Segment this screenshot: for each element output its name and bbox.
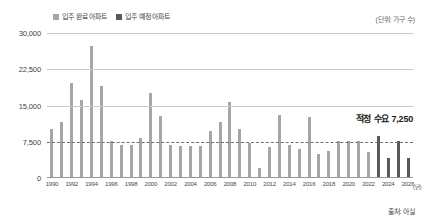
bar <box>110 141 113 177</box>
bar <box>268 147 271 177</box>
bar <box>367 152 370 177</box>
x-axis-slot: 2008 <box>225 181 235 195</box>
bar <box>70 83 73 177</box>
y-axis-tick-label: 7,500 <box>23 137 41 146</box>
bar <box>130 145 133 177</box>
apartment-supply-chart: 입주 완료 아파트 입주 예정 아파트 (단위: 가구 수) 07,50015,… <box>0 0 425 224</box>
bar <box>169 145 172 177</box>
x-axis-slot: 2000 <box>146 181 156 195</box>
chart-legend: 입주 완료 아파트 입주 예정 아파트 <box>53 13 170 20</box>
x-axis-slot: 2022 <box>364 181 374 195</box>
bar <box>80 100 83 177</box>
gridline <box>47 69 413 70</box>
bar <box>50 129 53 177</box>
unit-note: (단위: 가구 수) <box>376 14 416 24</box>
y-axis-tick-label: 15,000 <box>19 101 41 110</box>
x-axis-slot: 2020 <box>344 181 354 195</box>
bar <box>228 102 231 177</box>
bar <box>60 122 63 177</box>
x-axis-slot: 1996 <box>106 181 116 195</box>
bar <box>327 151 330 177</box>
x-axis-slot: 1998 <box>126 181 136 195</box>
legend-item-completed: 입주 완료 아파트 <box>53 13 107 20</box>
bar <box>219 122 222 177</box>
bar <box>100 86 103 177</box>
bar <box>248 143 251 177</box>
legend-label-completed: 입주 완료 아파트 <box>62 13 107 20</box>
square-swatch-icon <box>53 14 59 20</box>
bar <box>387 158 390 177</box>
axis-baseline <box>47 177 413 178</box>
plot-area <box>47 33 413 178</box>
x-axis-slot: 2010 <box>245 181 255 195</box>
bar <box>397 141 400 177</box>
gridline <box>47 106 413 107</box>
x-axis-slot: 1990 <box>47 181 57 195</box>
x-axis-slot: 2002 <box>166 181 176 195</box>
gridline <box>47 33 413 34</box>
x-axis-slot: 1992 <box>67 181 77 195</box>
square-swatch-icon <box>116 14 122 20</box>
demand-annotation: 적정 수요 7,250 <box>356 112 413 125</box>
bar <box>357 141 360 177</box>
x-axis-slot: 1994 <box>87 181 97 195</box>
bar <box>278 115 281 177</box>
bar <box>308 117 311 177</box>
bar <box>238 129 241 177</box>
bar <box>317 154 320 177</box>
x-axis-slot: 2024 <box>383 181 393 195</box>
bar <box>179 146 182 177</box>
y-axis-tick-label: 30,000 <box>19 29 41 38</box>
y-axis-tick-label: 0 <box>37 174 41 183</box>
bar <box>407 158 410 177</box>
bar <box>288 145 291 177</box>
bar <box>139 138 142 177</box>
x-axis-slot: 2006 <box>205 181 215 195</box>
x-axis-unit-label: (년) <box>413 183 422 191</box>
reference-line <box>47 142 413 143</box>
source-label: 출처: 아실 <box>388 206 415 216</box>
x-axis-slot: 2016 <box>304 181 314 195</box>
x-axis-slot: 2004 <box>185 181 195 195</box>
legend-item-planned: 입주 예정 아파트 <box>116 13 170 20</box>
bar <box>159 116 162 177</box>
bar <box>120 145 123 177</box>
x-axis-slot: 2018 <box>324 181 334 195</box>
legend-label-planned: 입주 예정 아파트 <box>125 13 170 20</box>
bar <box>189 146 192 177</box>
y-axis: 07,50015,00022,50030,000 <box>0 33 44 178</box>
bar <box>347 141 350 177</box>
y-axis-tick-label: 22,500 <box>19 65 41 74</box>
x-axis: 1990199219941996199820002002200420062008… <box>47 181 413 195</box>
bar <box>298 149 301 177</box>
bar <box>337 141 340 177</box>
bar <box>209 131 212 177</box>
bar <box>90 46 93 177</box>
x-axis-slot: 2014 <box>284 181 294 195</box>
x-axis-slot: 2026 <box>403 181 413 195</box>
bar <box>258 168 261 177</box>
x-axis-slot: 2012 <box>265 181 275 195</box>
bar <box>199 146 202 177</box>
